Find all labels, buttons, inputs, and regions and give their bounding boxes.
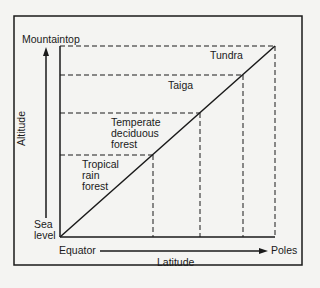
equator-label: Equator <box>59 245 96 256</box>
temperate-label-3: forest <box>111 139 137 150</box>
tundra-label: Tundra <box>210 50 243 61</box>
up-arrow-icon <box>43 47 49 56</box>
poles-label: Poles <box>271 245 297 256</box>
outer-frame <box>14 16 302 265</box>
right-arrow-icon <box>259 248 268 254</box>
altitude-label: Altitude <box>16 111 27 146</box>
tropical-label-3: forest <box>82 181 108 192</box>
taiga-label: Taiga <box>168 80 193 91</box>
latitude-label: Latitude <box>157 257 194 268</box>
mountaintop-label: Mountaintop <box>22 34 80 45</box>
level-label: level <box>34 230 56 241</box>
